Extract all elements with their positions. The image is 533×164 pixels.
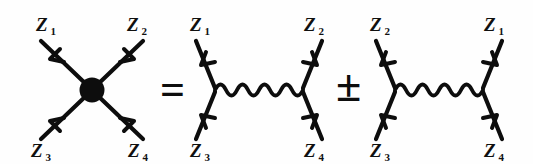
plus-minus-sign: ± [336, 60, 361, 111]
label-d3-top-left: Z2 [369, 14, 391, 37]
label-d1-bottom-right: Z4 [127, 140, 149, 163]
label-d1-top-left: Z1 [35, 14, 56, 37]
equals-sign: = [160, 65, 185, 114]
label-d2-top-right: Z2 [303, 14, 325, 37]
diagram-t-channel: Z1 Z2 Z3 Z4 [189, 14, 325, 163]
label-d3-top-right: Z1 [483, 14, 504, 37]
feynman-diagram-figure: Z1 Z2 Z3 Z4 = Z1 Z2 Z3 [0, 0, 533, 164]
diagram-u-channel: Z2 Z1 Z3 Z4 [369, 14, 505, 163]
label-d3-bottom-left: Z3 [369, 140, 391, 163]
diagram-contact-blob: Z1 Z2 Z3 Z4 [30, 14, 149, 163]
wavy-propagator-d2 [215, 85, 303, 96]
label-d3-bottom-right: Z4 [483, 140, 505, 163]
vertex-blob [80, 78, 105, 103]
label-d2-bottom-right: Z4 [303, 140, 325, 163]
diagram-canvas: Z1 Z2 Z3 Z4 = Z1 Z2 Z3 [0, 0, 533, 164]
wavy-propagator-d3 [395, 85, 483, 96]
label-d2-bottom-left: Z3 [189, 140, 211, 163]
label-d1-top-right: Z2 [126, 14, 148, 37]
label-d1-bottom-left: Z3 [30, 140, 52, 163]
label-d2-top-left: Z1 [189, 14, 210, 37]
